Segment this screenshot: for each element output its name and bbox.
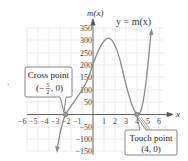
y-axis-label: m(x) — [87, 8, 104, 18]
touch-point-marker — [135, 112, 140, 117]
svg-text:Cross point: Cross point — [28, 70, 70, 80]
svg-text:−50: −50 — [79, 123, 92, 132]
touch-point-callout: Touch point (4, 0) — [125, 117, 177, 155]
svg-text:200: 200 — [80, 61, 92, 70]
bullet-dot: . — [7, 77, 9, 87]
svg-text:5: 5 — [47, 82, 50, 88]
svg-text:−5: −5 — [29, 117, 38, 126]
svg-text:Touch point: Touch point — [129, 133, 173, 143]
x-axis-label: x — [175, 109, 180, 119]
svg-text:350: 350 — [80, 24, 92, 33]
svg-text:, 0): , 0) — [51, 83, 63, 93]
x-axis-arrow-icon — [167, 113, 173, 117]
svg-text:6: 6 — [157, 117, 161, 126]
svg-text:2: 2 — [47, 89, 50, 95]
svg-text:−150: −150 — [75, 147, 92, 156]
svg-text:50: 50 — [84, 98, 92, 107]
curve-left-arrow-icon — [55, 146, 60, 153]
svg-text:−4: −4 — [40, 117, 49, 126]
svg-text:3: 3 — [124, 117, 128, 126]
curve-right-arrow-icon — [149, 28, 154, 35]
svg-text:−100: −100 — [75, 135, 92, 144]
svg-text:250: 250 — [80, 49, 92, 58]
svg-text:−6: −6 — [18, 117, 27, 126]
chart: m(x) x y = m(x) −6 −5 −4 −3 −2 −1 1 2 3 … — [0, 0, 188, 161]
cross-point-marker — [63, 112, 68, 117]
svg-text:(−: (− — [36, 83, 44, 93]
svg-text:1: 1 — [102, 117, 106, 126]
curve-label: y = m(x) — [116, 16, 151, 28]
svg-text:(4, 0): (4, 0) — [141, 144, 161, 154]
cross-point-callout: Cross point (− 5 2 , 0) — [25, 67, 72, 112]
svg-text:300: 300 — [80, 36, 92, 45]
svg-text:−3: −3 — [51, 117, 60, 126]
svg-text:2: 2 — [113, 117, 117, 126]
